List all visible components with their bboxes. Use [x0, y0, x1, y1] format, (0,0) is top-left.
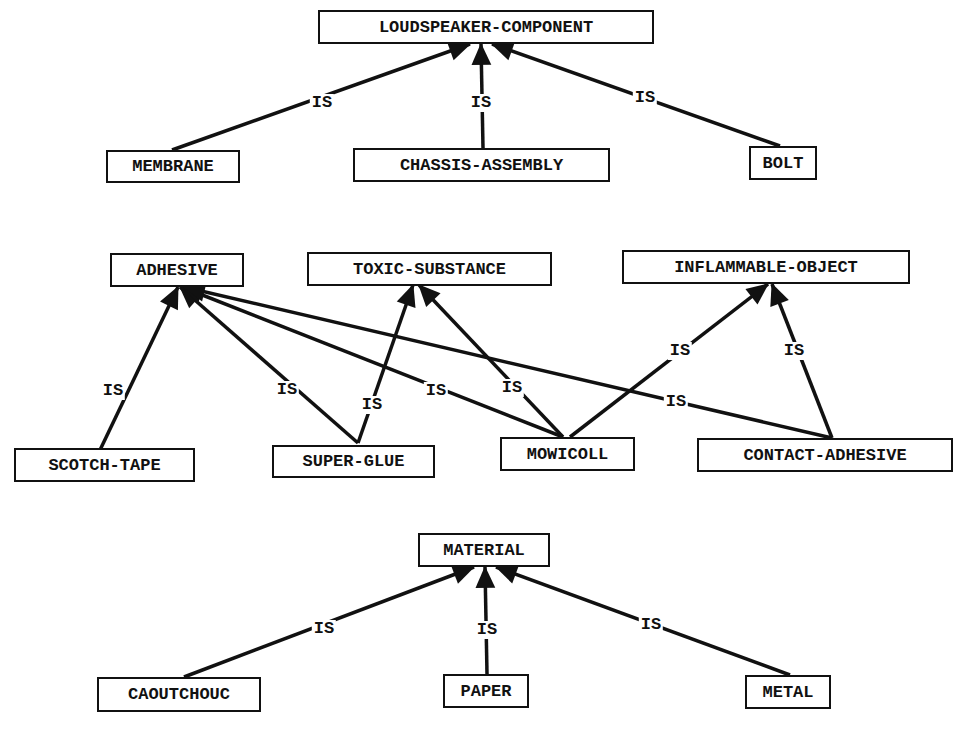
node-scotch-tape[interactable]: SCOTCH-TAPE	[14, 448, 195, 482]
edge-label: IS	[639, 616, 663, 634]
edge-label: IS	[500, 379, 524, 397]
diagram-canvas: IS IS IS IS IS IS IS IS IS IS IS IS IS I…	[0, 0, 966, 729]
edge-label: IS	[664, 393, 688, 411]
edge-label: IS	[633, 89, 657, 107]
edge-label: IS	[312, 620, 336, 638]
edge-superglue-toxic	[358, 285, 413, 443]
node-toxic-substance[interactable]: TOXIC-SUBSTANCE	[307, 252, 552, 286]
node-caoutchouc[interactable]: CAOUTCHOUC	[97, 677, 261, 712]
edge-label: IS	[469, 94, 493, 112]
node-inflammable-object[interactable]: INFLAMMABLE-OBJECT	[622, 250, 910, 284]
edge-label: IS	[360, 396, 384, 414]
node-material[interactable]: MATERIAL	[418, 533, 550, 567]
edge-superglue-adhesive	[180, 287, 358, 443]
edge-mowicoll-inflammable	[570, 284, 768, 437]
node-super-glue[interactable]: SUPER-GLUE	[272, 445, 435, 478]
node-metal[interactable]: METAL	[745, 675, 831, 709]
edge-scotchtape-adhesive	[100, 287, 178, 450]
edge-label: IS	[475, 621, 499, 639]
node-bolt[interactable]: BOLT	[749, 146, 817, 180]
edge-label: IS	[275, 381, 299, 399]
edge-mowicoll-toxic	[419, 285, 563, 437]
node-membrane[interactable]: MEMBRANE	[106, 150, 240, 183]
edge-label: IS	[668, 342, 692, 360]
node-paper[interactable]: PAPER	[443, 674, 529, 708]
node-contact-adhesive[interactable]: CONTACT-ADHESIVE	[697, 438, 953, 472]
edge-label: IS	[782, 342, 806, 360]
node-chassis-assembly[interactable]: CHASSIS-ASSEMBLY	[353, 148, 610, 182]
edge-label: IS	[101, 382, 125, 400]
node-adhesive[interactable]: ADHESIVE	[110, 253, 244, 287]
edge-label: IS	[310, 94, 334, 112]
edge-label: IS	[424, 382, 448, 400]
node-mowicoll[interactable]: MOWICOLL	[500, 437, 635, 471]
node-loudspeaker-component[interactable]: LOUDSPEAKER-COMPONENT	[318, 10, 654, 44]
edge-contact-inflammable	[772, 284, 832, 438]
